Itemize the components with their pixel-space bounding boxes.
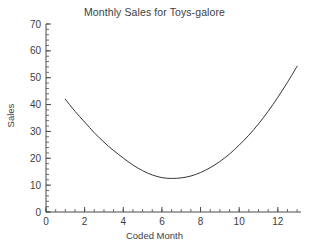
x-axis-tick-label: 2	[82, 216, 88, 227]
data-line-sales	[65, 66, 297, 178]
x-axis-tick-label: 12	[272, 216, 284, 227]
x-axis-title: Coded Month	[0, 230, 309, 241]
x-axis-tick-label: 8	[198, 216, 204, 227]
plot-area: 010203040506070024681012	[0, 0, 309, 250]
x-axis-tick-label: 0	[43, 216, 49, 227]
y-axis-tick-label: 50	[30, 72, 42, 83]
y-axis-tick-label: 60	[30, 45, 42, 56]
y-axis-title: Sales	[5, 93, 16, 139]
y-axis-tick-label: 20	[30, 153, 42, 164]
chart-container: Monthly Sales for Toys-galore 0102030405…	[0, 0, 309, 250]
y-axis-tick-label: 10	[30, 180, 42, 191]
y-axis-tick-label: 0	[35, 207, 41, 218]
y-axis-tick-label: 70	[30, 19, 42, 30]
x-axis-tick-label: 6	[159, 216, 165, 227]
x-axis-tick-label: 10	[234, 216, 246, 227]
y-axis-tick-label: 30	[30, 126, 42, 137]
y-axis-tick-label: 40	[30, 99, 42, 110]
x-axis-tick-label: 4	[120, 216, 126, 227]
